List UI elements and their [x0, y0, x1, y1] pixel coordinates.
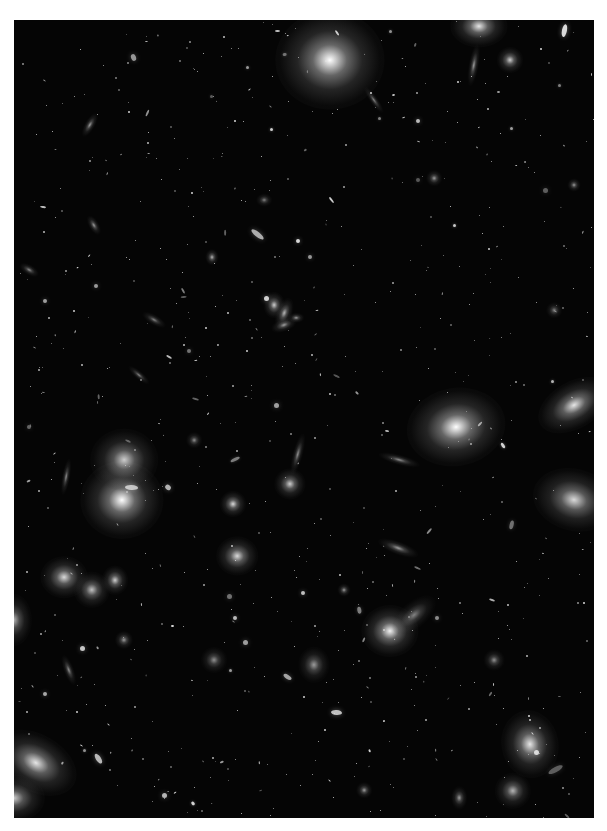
background-star [476, 146, 478, 148]
background-star [501, 439, 502, 440]
background-star [416, 92, 418, 94]
background-star [133, 475, 134, 476]
background-star [41, 393, 42, 394]
background-star [312, 111, 313, 112]
background-star [38, 490, 40, 492]
background-star [28, 526, 29, 527]
background-star [304, 300, 305, 301]
background-star [562, 307, 564, 309]
background-star [482, 233, 483, 234]
galaxy [127, 364, 152, 387]
background-star [561, 24, 568, 38]
background-star [55, 217, 56, 218]
background-star [486, 153, 487, 155]
background-star [241, 813, 242, 814]
background-star [130, 659, 132, 661]
background-star [332, 113, 333, 114]
background-star [183, 626, 184, 627]
background-star [410, 611, 411, 612]
background-star [580, 692, 581, 693]
background-star [36, 336, 37, 337]
background-star [503, 226, 504, 227]
background-star [248, 88, 251, 91]
background-star [147, 142, 149, 144]
background-star [54, 334, 55, 337]
background-star [134, 649, 135, 650]
background-star [543, 708, 544, 709]
background-star [44, 631, 46, 634]
background-star [450, 205, 452, 206]
background-star [581, 231, 583, 235]
galaxy [497, 47, 523, 73]
background-star [357, 607, 362, 614]
background-star [161, 623, 163, 625]
background-star [61, 210, 63, 212]
background-star [489, 692, 493, 697]
background-star [444, 178, 445, 179]
background-star [76, 711, 78, 713]
galaxy [90, 429, 158, 491]
background-star [527, 583, 528, 584]
background-star [156, 158, 157, 159]
galaxy [102, 566, 128, 595]
background-star [86, 704, 87, 705]
background-star [518, 26, 519, 27]
background-star [312, 774, 313, 775]
background-star [212, 757, 214, 759]
background-star [388, 102, 389, 103]
background-star [84, 94, 85, 95]
background-star [105, 705, 106, 706]
galaxy [84, 213, 103, 236]
background-star [287, 135, 288, 136]
background-star [366, 548, 367, 549]
background-star [243, 121, 244, 122]
background-star [498, 638, 499, 639]
background-star [459, 602, 461, 604]
background-star [366, 686, 369, 689]
background-star [191, 192, 193, 194]
background-star [256, 328, 259, 331]
background-star [366, 624, 368, 626]
background-star [285, 33, 286, 34]
background-star [181, 288, 186, 295]
background-star [205, 327, 207, 329]
background-star [65, 270, 67, 272]
background-star [66, 710, 67, 711]
background-star [368, 543, 369, 544]
background-star [207, 569, 208, 570]
background-star [378, 117, 381, 120]
background-star [189, 41, 191, 43]
background-star [205, 241, 207, 243]
background-star [261, 337, 262, 338]
background-star [216, 101, 218, 103]
background-star [61, 103, 62, 104]
background-star [353, 664, 354, 665]
background-star [279, 256, 280, 257]
background-star [328, 779, 331, 782]
background-star [244, 690, 246, 692]
background-star [429, 563, 430, 564]
background-star [294, 646, 295, 647]
background-star [57, 675, 58, 676]
background-star [417, 141, 420, 143]
background-star [188, 206, 189, 207]
galaxy [451, 786, 467, 809]
background-star [133, 280, 135, 282]
background-star [334, 394, 336, 396]
background-star [510, 333, 511, 334]
background-star [248, 690, 250, 692]
background-star [234, 187, 235, 189]
background-star [194, 787, 195, 788]
background-star [261, 156, 262, 157]
background-star [485, 83, 486, 84]
background-star [326, 220, 327, 221]
background-star [314, 625, 316, 627]
background-star [120, 154, 122, 156]
galaxy [376, 535, 420, 561]
background-star [93, 752, 103, 764]
background-star [53, 452, 56, 454]
background-star [301, 591, 305, 595]
background-star [170, 126, 172, 128]
background-star [447, 697, 450, 700]
background-star [435, 749, 436, 752]
